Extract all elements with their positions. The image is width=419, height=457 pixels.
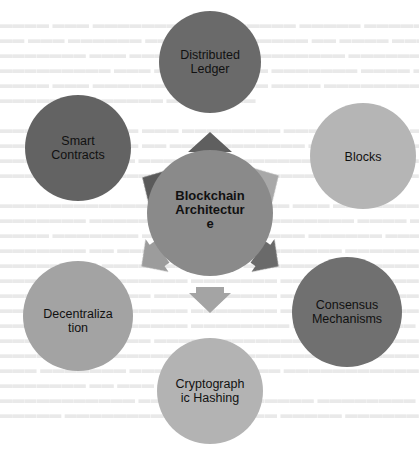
label-blockchain-architecture: Blockchain Architectur e [160,185,260,235]
label-line: Ledger [191,62,230,76]
label-line: ic Hashing [181,391,239,405]
label-line: Decentraliza [43,307,112,321]
arrow-to-cryptographic-hashing-icon [189,287,231,313]
label-line: Cryptograph [176,377,245,391]
label-line: Smart [61,134,94,148]
label-line: Blockchain [175,189,244,203]
label-line: Architectur [175,203,244,217]
label-line: Consensus [316,298,379,312]
label-consensus-mechanisms: Consensus Mechanisms [297,292,397,332]
label-line: tion [68,321,88,335]
label-decentralization: Decentraliza tion [28,301,128,341]
label-line: e [206,217,213,231]
label-line: Blocks [345,150,382,164]
label-distributed-ledger: Distributed Ledger [160,42,260,82]
label-blocks: Blocks [313,146,413,168]
label-line: Distributed [180,48,240,62]
label-line: Mechanisms [312,312,382,326]
label-smart-contracts: Smart Contracts [28,128,128,168]
label-cryptographic-hashing: Cryptograph ic Hashing [160,371,260,411]
label-line: Contracts [51,148,105,162]
